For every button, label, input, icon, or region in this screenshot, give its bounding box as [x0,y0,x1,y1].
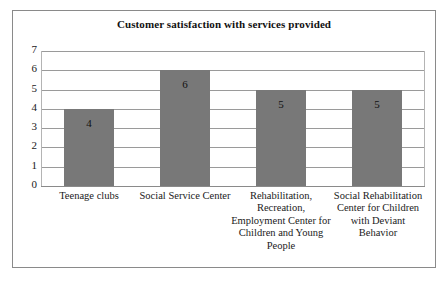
y-axis-tick-5: 5 [32,82,38,93]
bar-group-3: 5 [329,51,425,186]
bar-social-service-center[interactable]: 6 [160,70,210,186]
y-axis-tick-6: 6 [32,63,38,74]
category-label-0: Teenage clubs [41,190,137,202]
y-axis-tick-3: 3 [32,121,38,132]
bars-layer: 4 6 5 5 [41,51,425,186]
y-axis-tick-0: 0 [32,179,38,190]
y-axis-tick-7: 7 [32,44,38,55]
bar-group-1: 6 [137,51,233,186]
bar-value-label-1: 6 [160,79,210,90]
x-axis-baseline [41,186,425,187]
bar-group-0: 4 [41,51,137,186]
bar-teenage-clubs[interactable]: 4 [64,109,114,186]
chart-figure: Customer satisfaction with services prov… [12,10,436,268]
category-label-2: Rehabilitation, Recreation, Employment C… [231,190,331,252]
y-axis-tick-4: 4 [32,101,38,112]
bar-social-rehabilitation-center[interactable]: 5 [352,90,402,186]
bar-group-2: 5 [233,51,329,186]
chart-title: Customer satisfaction with services prov… [13,18,435,30]
category-label-3: Social Rehabilitation Center for Childre… [331,190,425,240]
bar-value-label-3: 5 [352,99,402,110]
y-axis: 7 6 5 4 3 2 1 0 [13,39,41,177]
bar-rehabilitation-recreation-employment-center[interactable]: 5 [256,90,306,186]
category-labels: Teenage clubs Social Service Center Reha… [41,190,425,266]
category-label-1: Social Service Center [137,190,233,202]
y-axis-tick-2: 2 [32,140,38,151]
y-axis-tick-1: 1 [32,159,38,170]
bar-value-label-2: 5 [256,99,306,110]
bar-value-label-0: 4 [64,118,114,129]
